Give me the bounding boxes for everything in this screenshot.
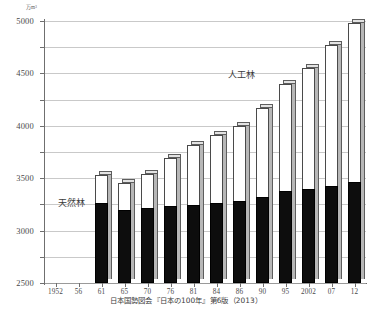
x-tick-86 [240, 283, 241, 287]
bar-65 [118, 183, 131, 283]
y-tick-label-4000: 4000 [16, 121, 34, 131]
gridline-4500 [44, 47, 366, 48]
plot-area: 0500100015002000250030003500400045005000 [44, 21, 366, 283]
y-tick-label-3500: 3500 [16, 173, 34, 183]
y-tick-label-4500: 4500 [16, 68, 34, 78]
bar-segment-natural-61 [95, 203, 108, 283]
bar-segment-natural-07 [325, 186, 338, 283]
bar-segment-natural-84 [210, 203, 223, 283]
x-tick-84 [217, 283, 218, 287]
x-tick-90 [263, 283, 264, 287]
gridline-5000 [44, 21, 366, 22]
bar-side-84 [223, 131, 227, 279]
bar-segment-natural-70 [141, 208, 154, 283]
bar-side-76 [177, 154, 181, 279]
bar-70 [141, 174, 154, 283]
bar-side-90 [269, 104, 273, 279]
x-tick-12 [355, 283, 356, 287]
bar-side-61 [108, 171, 112, 279]
x-tick-81 [194, 283, 195, 287]
y-tick-5000: 5000 [40, 21, 45, 22]
y-tick-4500: 4500 [40, 47, 45, 48]
y-tick-1500: 1500 [40, 204, 45, 205]
bar-95 [279, 84, 292, 283]
x-tick-95 [286, 283, 287, 287]
bar-2002 [302, 68, 315, 283]
bar-segment-natural-2002 [302, 189, 315, 283]
bar-61 [95, 175, 108, 283]
x-tick-65 [125, 283, 126, 287]
bar-side-81 [200, 141, 204, 279]
bar-86 [233, 126, 246, 283]
x-tick-1952 [56, 283, 57, 287]
bar-segment-natural-90 [256, 197, 269, 283]
forest-stock-stacked-bar-chart: 万m³ 050010001500200025003000350040004500… [0, 0, 372, 311]
bar-side-07 [338, 41, 342, 279]
x-tick-76 [171, 283, 172, 287]
y-tick-0: 0 [40, 283, 45, 284]
bar-side-70 [154, 170, 158, 279]
y-tick-4000: 4000 [40, 73, 45, 74]
y-tick-label-3000: 3000 [16, 226, 34, 236]
x-tick-70 [148, 283, 149, 287]
bar-side-12 [361, 19, 365, 279]
bar-84 [210, 135, 223, 283]
bar-segment-natural-76 [164, 206, 177, 283]
y-tick-500: 500 [40, 257, 45, 258]
y-tick-2500: 2500 [40, 152, 45, 153]
bar-side-95 [292, 80, 296, 279]
source-caption: 日本国勢図会『日本の100年』第6版（2013） [0, 294, 372, 305]
bar-segment-natural-12 [348, 182, 361, 283]
y-tick-label-2500: 2500 [16, 278, 34, 288]
bar-segment-natural-81 [187, 205, 200, 283]
bar-segment-natural-86 [233, 201, 246, 283]
bar-12 [348, 23, 361, 283]
x-tick-07 [332, 283, 333, 287]
x-tick-61 [102, 283, 103, 287]
y-tick-3500: 3500 [40, 100, 45, 101]
bar-side-65 [131, 179, 135, 279]
y-tick-3000: 3000 [40, 126, 45, 127]
bar-07 [325, 45, 338, 283]
y-tick-2000: 2000 [40, 178, 45, 179]
bar-segment-natural-65 [118, 210, 131, 283]
bar-76 [164, 158, 177, 283]
bar-90 [256, 108, 269, 283]
y-tick-1000: 1000 [40, 231, 45, 232]
x-tick-2002 [309, 283, 310, 287]
bar-side-86 [246, 122, 250, 279]
x-tick-56 [79, 283, 80, 287]
bar-81 [187, 145, 200, 283]
bar-segment-natural-95 [279, 191, 292, 283]
gridline-0 [44, 283, 366, 284]
bar-side-2002 [315, 64, 319, 279]
planted-forest-label: 人工林 [228, 68, 255, 81]
y-axis-unit-label: 万m³ [26, 3, 37, 10]
natural-forest-label: 天然林 [58, 196, 85, 209]
y-tick-label-5000: 5000 [16, 16, 34, 26]
